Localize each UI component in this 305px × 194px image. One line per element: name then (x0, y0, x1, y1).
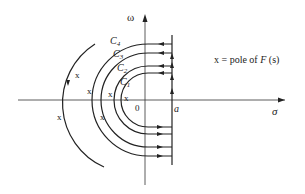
omega-label: ω (127, 12, 134, 23)
c2-label: C2 (117, 63, 127, 75)
c1-label: C1 (120, 77, 130, 89)
outer-arc (63, 44, 104, 167)
c4-label: C4 (110, 36, 120, 48)
pole-marker: x (57, 113, 62, 122)
legend: x = pole of F (s) (214, 55, 279, 65)
contour-diagram (0, 0, 305, 194)
a-label: a (174, 104, 179, 114)
c3-label: C3 (113, 49, 123, 61)
origin-label: 0 (135, 104, 140, 113)
sigma-label: σ (272, 106, 277, 117)
pole-marker: x (124, 94, 129, 103)
pole-marker: x (108, 90, 113, 99)
pole-marker: x (75, 71, 80, 80)
pole-marker: x (100, 113, 105, 122)
pole-marker: x (87, 87, 92, 96)
